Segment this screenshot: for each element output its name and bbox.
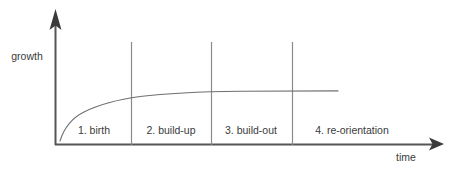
- x-axis-label: time: [396, 151, 416, 163]
- phase-label-birth: 1. birth: [78, 124, 110, 136]
- phase-label-build-up: 2. build-up: [146, 124, 195, 136]
- y-axis-label: growth: [11, 50, 43, 62]
- growth-phases-diagram: growth time 1. birth 2. build-up 3. buil…: [0, 0, 453, 170]
- diagram-canvas: growth time 1. birth 2. build-up 3. buil…: [0, 0, 453, 170]
- phase-label-re-orientation: 4. re-orientation: [315, 124, 389, 136]
- phase-label-build-out: 3. build-out: [225, 124, 277, 136]
